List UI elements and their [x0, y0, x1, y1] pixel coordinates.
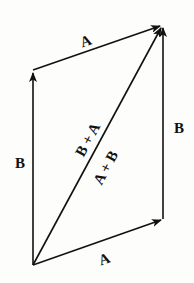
vector-parallelogram-diagram: A A B B B + A A + B [0, 0, 194, 283]
label-diag-lower: A + B [90, 148, 121, 187]
vector-a-top [33, 26, 160, 70]
vector-a-bottom [33, 220, 161, 265]
label-b-left: B [15, 155, 25, 171]
label-a-top: A [78, 32, 94, 51]
label-a-bottom: A [97, 250, 113, 269]
label-diag-upper: B + A [72, 120, 103, 159]
label-b-right: B [174, 120, 184, 136]
